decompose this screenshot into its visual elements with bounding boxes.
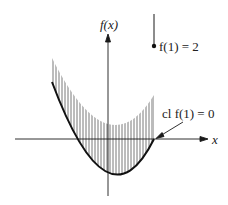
point-f1-dot: [152, 44, 156, 48]
x-axis: [15, 137, 208, 142]
x-axis-arrow-icon: [200, 137, 208, 142]
closure-pointer-arrow: [156, 122, 183, 139]
closure-curve: [52, 82, 154, 175]
y-axis-arrow-icon: [106, 34, 111, 42]
x-axis-label: x: [212, 133, 218, 146]
y-axis-label: f(x): [100, 18, 118, 31]
point-label: f(1) = 2: [159, 40, 199, 53]
closure-label: cl f(1) = 0: [162, 107, 214, 120]
pointer-arrow-icon: [156, 133, 164, 139]
